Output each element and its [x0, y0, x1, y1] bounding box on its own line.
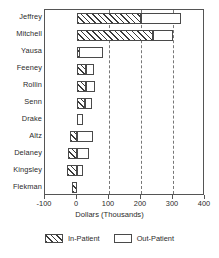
legend-item-in-patient: In-Patient [45, 234, 100, 243]
bar-segment-out-patient [77, 131, 93, 142]
bar-row [45, 114, 203, 125]
bar-segment-out-patient [85, 98, 92, 109]
bar-segment-in-patient [77, 64, 86, 75]
bar-segment-in-patient [77, 98, 85, 109]
y-axis-label: Drake [22, 115, 42, 123]
y-axis-label: Jeffrey [19, 13, 42, 21]
y-axis-label: Kingsley [13, 166, 42, 174]
x-axis-tick-label: 200 [134, 199, 146, 208]
bar-row [45, 165, 203, 176]
x-axis-tick-label: -100 [37, 199, 52, 208]
x-axis-tick-label: 0 [74, 199, 78, 208]
bar-segment-out-patient [153, 30, 173, 41]
bar-segment-out-patient [77, 148, 89, 159]
legend-label-out-patient: Out-Patient [137, 234, 174, 243]
bar-row [45, 13, 203, 24]
bar-row [45, 30, 203, 41]
y-axis-label: Senn [24, 98, 42, 106]
bar-row [45, 47, 203, 58]
y-axis-label: Yausa [21, 47, 42, 55]
bar-row [45, 64, 203, 75]
bar-segment-out-patient [77, 165, 83, 176]
x-axis-tick-label: 300 [166, 199, 178, 208]
bar-segment-out-patient [77, 114, 83, 125]
bar-chart: JeffreyMitchellYausaFeeneyRollinSennDrak… [0, 0, 219, 258]
x-axis-title: Dollars (Thousands) [0, 210, 219, 219]
bar-segment-out-patient [79, 47, 103, 58]
y-axis-label: Rollin [23, 81, 42, 89]
bar-row [45, 98, 203, 109]
hatched-swatch-icon [45, 234, 63, 243]
x-axis-tick-label: 400 [198, 199, 210, 208]
y-axis-label: Flekman [13, 183, 42, 191]
bar-segment-in-patient [77, 30, 153, 41]
bar-segment-out-patient [86, 81, 95, 92]
chart-legend: In-Patient Out-Patient [0, 234, 219, 243]
y-axis-label: Mitchell [16, 30, 42, 38]
y-axis-label: Delaney [14, 149, 42, 157]
bar-row [45, 81, 203, 92]
y-axis-label: Feeney [17, 64, 42, 72]
bar-segment-in-patient [77, 13, 141, 24]
bar-segment-out-patient [86, 64, 94, 75]
bar-segment-in-patient [72, 182, 77, 193]
bar-row [45, 148, 203, 159]
bar-segment-in-patient [67, 165, 77, 176]
plot-area [44, 9, 204, 195]
open-swatch-icon [114, 234, 132, 243]
legend-label-in-patient: In-Patient [68, 234, 100, 243]
legend-item-out-patient: Out-Patient [114, 234, 174, 243]
bar-segment-out-patient [141, 13, 181, 24]
bar-row [45, 182, 203, 193]
bar-row [45, 131, 203, 142]
bar-segment-in-patient [70, 131, 77, 142]
bar-segment-in-patient [77, 81, 86, 92]
y-axis-label: Altz [29, 132, 42, 140]
bar-segment-in-patient [68, 148, 77, 159]
x-axis-tick-label: 100 [102, 199, 114, 208]
